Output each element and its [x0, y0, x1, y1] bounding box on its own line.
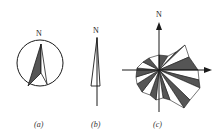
caption-a: (a)	[34, 120, 44, 129]
figure-a: N (a)	[17, 29, 63, 129]
figure-c: N (c)	[122, 10, 212, 129]
north-pointer-icon	[91, 38, 100, 86]
north-label-c: N	[156, 10, 162, 19]
figure-canvas: N (a) N (b) N	[0, 0, 218, 138]
north-arrowhead-icon	[156, 22, 162, 30]
east-arrowhead-icon	[204, 67, 212, 73]
north-arrow-open-half-icon	[41, 44, 47, 84]
north-label-a: N	[36, 29, 42, 38]
north-label-b: N	[93, 26, 99, 35]
caption-c: (c)	[153, 120, 162, 129]
caption-b: (b)	[91, 120, 101, 129]
north-arrow-shaded-half-icon	[28, 44, 41, 86]
figure-b: N (b)	[91, 26, 101, 129]
wind-rose-sectors	[136, 45, 200, 108]
